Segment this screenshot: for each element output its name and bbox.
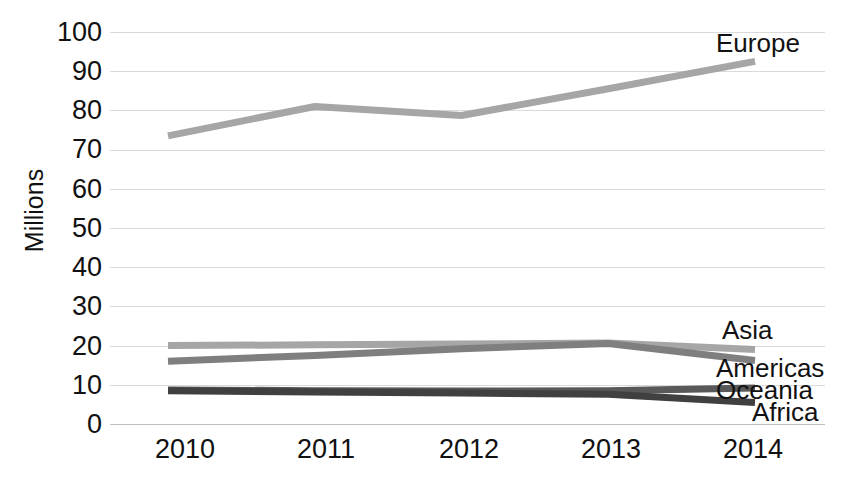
series-label-europe: Europe [716, 30, 800, 56]
series-line-europe [168, 61, 755, 135]
line-chart: 100 90 80 70 60 50 40 30 20 10 0 Million… [0, 0, 851, 485]
series-label-asia: Asia [722, 317, 773, 343]
series-group [0, 0, 851, 485]
series-label-africa: Africa [752, 399, 818, 425]
